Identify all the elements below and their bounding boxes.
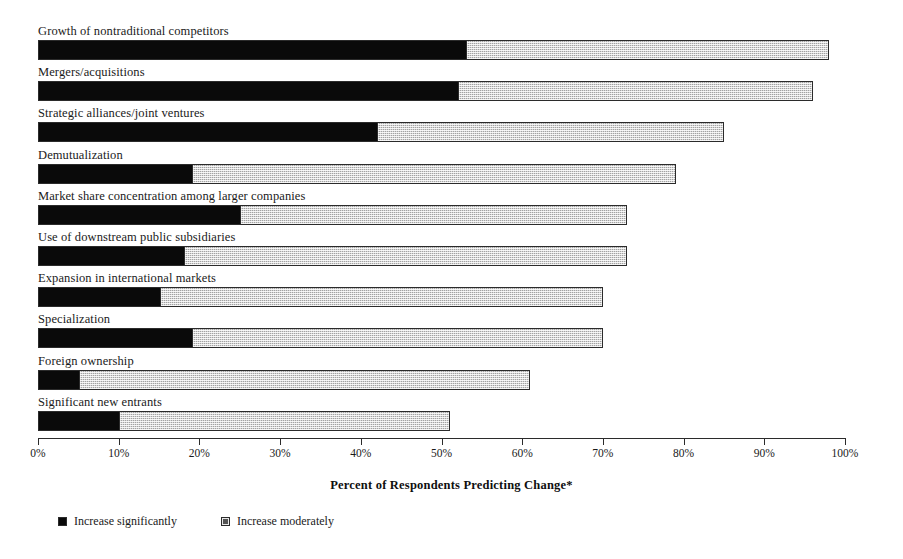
x-axis-tick <box>764 438 765 445</box>
legend-item-label: Increase moderately <box>237 514 334 529</box>
horizontal-stacked-bar-chart: Growth of nontraditional competitorsMerg… <box>0 0 903 559</box>
bar-category-label: Significant new entrants <box>38 395 162 410</box>
bar-track <box>38 205 627 225</box>
bar-segment-increase-moderately <box>160 288 602 306</box>
x-axis-tick <box>199 438 200 445</box>
bar-segment-increase-significantly <box>39 206 240 224</box>
stacked-bar <box>38 287 603 307</box>
stacked-bar <box>38 40 829 60</box>
bar-segment-divider <box>184 247 185 265</box>
bar-segment-increase-moderately <box>240 206 626 224</box>
x-axis-tick <box>845 438 846 445</box>
bar-segment-divider <box>119 412 120 430</box>
stacked-bar <box>38 246 627 266</box>
bar-track <box>38 287 603 307</box>
stacked-bar <box>38 122 724 142</box>
x-axis-tick-label: 100% <box>832 447 859 459</box>
bar-segment-divider <box>377 123 378 141</box>
x-axis-tick <box>522 438 523 445</box>
bar-segment-divider <box>192 165 193 183</box>
x-axis-tick-label: 50% <box>431 447 452 459</box>
bar-segment-increase-moderately <box>184 247 626 265</box>
stacked-bar <box>38 411 450 431</box>
bar-track <box>38 370 530 390</box>
bar-segment-divider <box>466 41 467 59</box>
bar-segment-increase-significantly <box>39 123 377 141</box>
stacked-bar <box>38 205 627 225</box>
chart-legend: Increase significantlyIncrease moderatel… <box>58 514 334 529</box>
bar-segment-increase-significantly <box>39 329 192 347</box>
bar-track <box>38 40 829 60</box>
stippled-light-square-icon <box>221 517 230 526</box>
x-axis-tick <box>684 438 685 445</box>
stacked-bar <box>38 164 676 184</box>
bar-segment-increase-moderately <box>466 41 828 59</box>
bar-category-label: Use of downstream public subsidiaries <box>38 230 235 245</box>
bar-segment-divider <box>160 288 161 306</box>
bar-track <box>38 122 724 142</box>
x-axis-title: Percent of Respondents Predicting Change… <box>0 478 903 493</box>
x-axis-tick <box>280 438 281 445</box>
bar-segment-divider <box>240 206 241 224</box>
bar-segment-increase-significantly <box>39 165 192 183</box>
bar-track <box>38 81 813 101</box>
bar-category-label: Demutualization <box>38 148 123 163</box>
bar-category-label: Growth of nontraditional competitors <box>38 24 229 39</box>
x-axis: 0%10%20%30%40%50%60%70%80%90%100% <box>38 438 845 448</box>
bar-track <box>38 246 627 266</box>
bar-category-label: Specialization <box>38 312 110 327</box>
bar-category-label: Expansion in international markets <box>38 271 216 286</box>
legend-item[interactable]: Increase moderately <box>221 514 334 529</box>
x-axis-tick <box>361 438 362 445</box>
bar-segment-increase-significantly <box>39 412 119 430</box>
stacked-bar <box>38 328 603 348</box>
bar-segment-increase-significantly <box>39 288 160 306</box>
bar-category-label: Foreign ownership <box>38 354 134 369</box>
x-axis-tick-label: 30% <box>270 447 291 459</box>
x-axis-tick-label: 20% <box>189 447 210 459</box>
x-axis-tick-label: 40% <box>350 447 371 459</box>
bar-segment-increase-significantly <box>39 82 458 100</box>
filled-black-square-icon <box>58 517 67 526</box>
bar-segment-divider <box>79 371 80 389</box>
x-axis-tick-label: 0% <box>30 447 45 459</box>
bar-track <box>38 411 450 431</box>
bar-segment-increase-moderately <box>79 371 529 389</box>
x-axis-tick-label: 60% <box>512 447 533 459</box>
bar-category-label: Market share concentration among larger … <box>38 189 305 204</box>
legend-item[interactable]: Increase significantly <box>58 514 177 529</box>
bar-track <box>38 328 603 348</box>
x-axis-tick-label: 70% <box>592 447 613 459</box>
x-axis-tick-label: 10% <box>108 447 129 459</box>
x-axis-tick-label: 90% <box>754 447 775 459</box>
bar-segment-increase-moderately <box>458 82 812 100</box>
bar-segment-increase-moderately <box>192 329 602 347</box>
bar-segment-increase-moderately <box>119 412 448 430</box>
bar-category-label: Strategic alliances/joint ventures <box>38 106 205 121</box>
bar-segment-increase-moderately <box>377 123 723 141</box>
bar-segment-divider <box>458 82 459 100</box>
stacked-bar <box>38 81 813 101</box>
stacked-bar <box>38 370 530 390</box>
legend-item-label: Increase significantly <box>74 514 177 529</box>
x-axis-tick <box>603 438 604 445</box>
bar-category-label: Mergers/acquisitions <box>38 65 145 80</box>
plot-area: Growth of nontraditional competitorsMerg… <box>38 24 845 436</box>
bar-track <box>38 164 676 184</box>
bar-segment-increase-significantly <box>39 41 466 59</box>
bar-segment-increase-significantly <box>39 371 79 389</box>
bar-segment-divider <box>192 329 193 347</box>
x-axis-tick <box>38 438 39 445</box>
bar-segment-increase-moderately <box>192 165 675 183</box>
bar-segment-increase-significantly <box>39 247 184 265</box>
x-axis-tick <box>442 438 443 445</box>
x-axis-tick <box>119 438 120 445</box>
x-axis-tick-label: 80% <box>673 447 694 459</box>
